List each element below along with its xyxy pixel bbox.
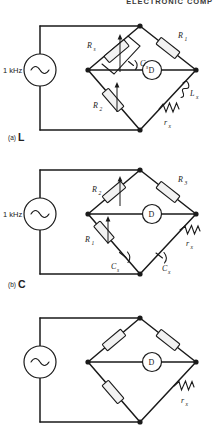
label-r1-sub-b: 1 <box>92 240 95 246</box>
ac-source-label-a: 1 kHz <box>3 66 22 75</box>
arm-upper-right-a: R 1 <box>156 31 188 59</box>
label-rs-sub-a: s <box>94 46 96 52</box>
arm-upper-right-c <box>156 329 180 350</box>
arm-lower-left-c <box>102 380 124 404</box>
caption-tag-a: (a) <box>8 134 16 141</box>
ac-source-a <box>24 54 56 86</box>
arm-lower-left-a: R 2 <box>92 82 124 112</box>
label-rx-sub-a: x <box>168 123 172 129</box>
label-cx-sub-b: x <box>167 269 171 275</box>
label-r2-a: R <box>92 101 98 110</box>
label-lx-a: L <box>189 89 195 98</box>
component-r1-a <box>156 37 180 58</box>
bridge-diamond-c <box>85 315 198 424</box>
label-r1-b: R <box>84 235 90 244</box>
label-r3-sub-b: 3 <box>184 180 188 186</box>
component-r2-a <box>102 88 124 112</box>
detector-label-c: D <box>149 358 155 367</box>
component-resistor-ur-c <box>156 329 180 350</box>
label-rx-b: r <box>186 239 190 248</box>
arm-upper-left-c <box>102 329 126 351</box>
detector-b: D <box>143 205 162 224</box>
component-r1-b <box>94 221 115 243</box>
caption-body-b: C <box>18 278 26 290</box>
label-cs-sub-a: s <box>146 64 148 70</box>
ac-source-b <box>24 198 56 230</box>
label-rs-a: R <box>86 41 92 50</box>
arm-upper-left-a: R s C s <box>86 34 148 74</box>
detector-label-a: D <box>149 66 155 75</box>
component-cs-a <box>129 61 138 70</box>
detector-c: D <box>143 353 162 372</box>
label-r3-b: R <box>177 175 183 184</box>
running-head: ELECTRONIC COMP <box>126 0 213 4</box>
caption-tag-b: (b) <box>8 281 16 288</box>
caption-figure-b: (b)C <box>8 278 26 290</box>
component-resistor-ul-c <box>102 329 126 351</box>
label-r2-sub-b: 2 <box>99 190 102 196</box>
label-rx-sub-b: x <box>190 244 194 250</box>
arm-upper-right-b: R 3 <box>156 175 188 203</box>
label-r1-sub-a: 1 <box>185 36 188 42</box>
figure-c-bridge: D r x <box>0 300 217 429</box>
label-r2-b: R <box>91 185 97 194</box>
component-lx-a <box>181 81 189 97</box>
label-rx-a: r <box>164 118 168 127</box>
figure-page: ELECTRONIC COMP 1 kHz <box>0 0 217 429</box>
arm-lower-right-c: r x <box>174 381 194 407</box>
component-resistor-ll-c <box>102 380 124 404</box>
arm-lower-left-b: R 1 C s <box>84 216 130 273</box>
arm-upper-left-b: R 2 <box>91 176 126 206</box>
caption-figure-a: (a)L <box>8 131 24 143</box>
component-cx-b <box>156 253 166 264</box>
component-rs-a <box>104 40 129 63</box>
label-lx-sub-a: x <box>195 94 199 100</box>
component-r3-b <box>156 181 180 202</box>
label-rx-c: r <box>181 396 185 405</box>
ac-source-label-b: 1 kHz <box>3 210 22 219</box>
label-r1-a: R <box>177 31 183 40</box>
component-rx-b <box>180 226 200 235</box>
ac-source-c <box>24 346 56 378</box>
label-cs-sub-b: s <box>117 267 119 273</box>
figure-b-capacitance-bridge: 1 kHz D <box>0 152 217 277</box>
caption-body-a: L <box>18 131 24 143</box>
detector-label-b: D <box>149 210 155 219</box>
label-r2-sub-a: 2 <box>100 106 103 112</box>
label-rx-sub-c: x <box>185 401 189 407</box>
figure-a-inductance-bridge: 1 kHz D <box>0 8 217 133</box>
component-r2-b <box>102 181 126 203</box>
